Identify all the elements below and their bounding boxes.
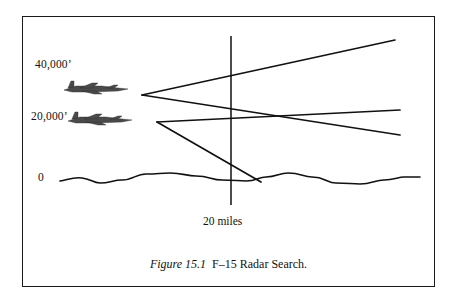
terrain-line: [60, 173, 420, 184]
altitude-label-20000: 20,000’: [31, 110, 68, 122]
figure-caption: Figure 15.1 F–15 Radar Search.: [22, 257, 435, 272]
figure-container: 40,000’ 20,000’ 0 20 miles Figure 15.1 F…: [0, 0, 459, 305]
radar-beam-high-lower: [142, 95, 400, 135]
altitude-label-40000: 40,000’: [35, 58, 72, 70]
radar-beam-high-upper: [142, 40, 395, 95]
altitude-label-0: 0: [38, 171, 44, 183]
figure-caption-title: F–15 Radar Search.: [212, 257, 307, 271]
f15-aircraft-icon-high: [62, 79, 130, 97]
radar-beam-low-upper: [157, 110, 400, 122]
figure-caption-number: Figure 15.1: [150, 257, 206, 271]
f15-aircraft-icon-low: [66, 110, 134, 128]
range-marker-label: 20 miles: [203, 215, 242, 227]
